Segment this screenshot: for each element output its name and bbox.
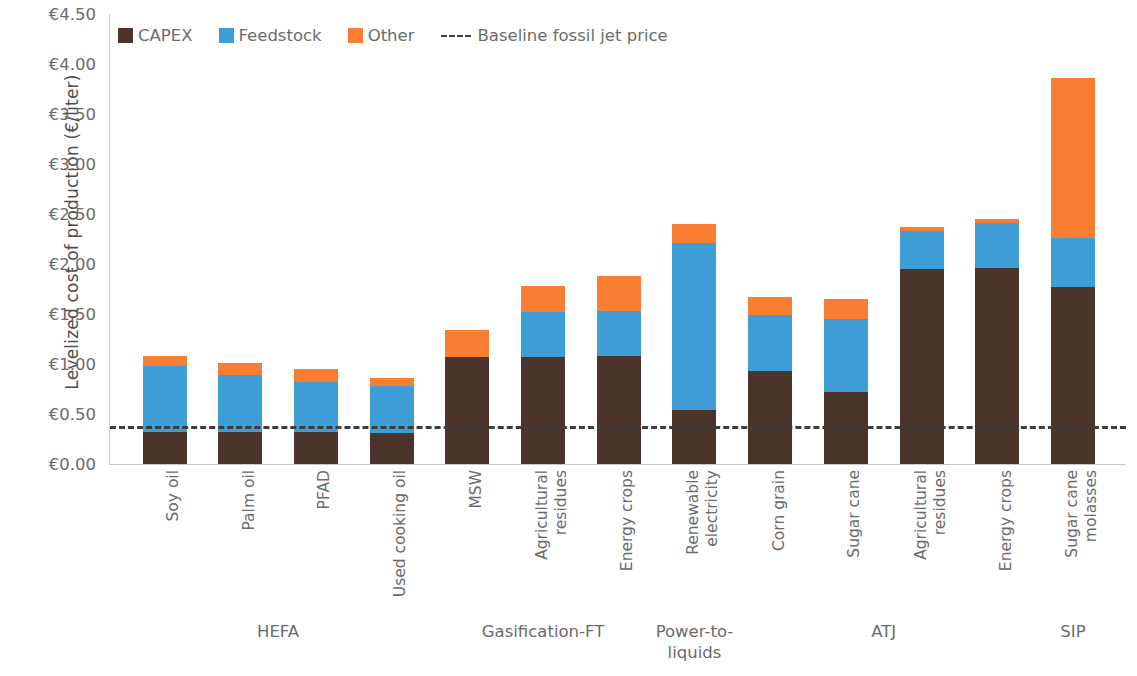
x-axis-label-text: PFAD xyxy=(315,470,334,509)
bar-segment-capex xyxy=(218,432,262,464)
x-axis-label-line: Renewable xyxy=(684,470,703,555)
x-axis-label-line: MSW xyxy=(467,470,486,509)
x-axis-label-line: Corn grain xyxy=(770,470,789,551)
bar-column[interactable] xyxy=(370,378,414,464)
bar-column[interactable] xyxy=(143,356,187,464)
bar-segment-capex xyxy=(900,269,944,464)
y-axis-tick-label: €4.50 xyxy=(49,5,96,24)
bar-segment-capex xyxy=(748,371,792,464)
bar-segment-other xyxy=(370,378,414,386)
y-axis-tick-label: €2.00 xyxy=(49,255,96,274)
x-axis-label-text: Energy crops xyxy=(618,470,637,571)
bar-segment-capex xyxy=(597,356,641,464)
bar-segment-feedstock xyxy=(521,312,565,357)
group-label: SIP xyxy=(983,622,1137,643)
x-axis-label: Agriculturalresidues xyxy=(521,470,565,620)
x-axis-label-text: Sugar canemolasses xyxy=(1063,470,1100,558)
x-axis-label-text: Renewableelectricity xyxy=(684,470,721,555)
group-label: HEFA xyxy=(188,622,368,643)
bar-segment-other xyxy=(143,356,187,366)
x-axis-label: Corn grain xyxy=(748,470,792,620)
bar-segment-feedstock xyxy=(900,231,944,269)
x-axis-label-line: PFAD xyxy=(315,470,334,509)
x-axis-label: Sugar canemolasses xyxy=(1051,470,1095,620)
y-axis-tick-label: €3.00 xyxy=(49,155,96,174)
x-axis-label: MSW xyxy=(445,470,489,620)
x-axis-label: Sugar cane xyxy=(824,470,868,620)
x-axis-label-text: Corn grain xyxy=(770,470,789,551)
x-axis-label-text: Soy oil xyxy=(164,470,183,522)
x-axis-label: PFAD xyxy=(294,470,338,620)
bar-segment-feedstock xyxy=(975,223,1019,268)
bar-column[interactable] xyxy=(445,330,489,464)
bar-column[interactable] xyxy=(218,363,262,464)
x-axis-label-text: Agriculturalresidues xyxy=(533,470,570,560)
bar-segment-other xyxy=(294,369,338,382)
bar-segment-feedstock xyxy=(672,243,716,410)
bar-segment-other xyxy=(597,276,641,311)
x-axis-line xyxy=(109,464,1126,465)
bar-segment-feedstock xyxy=(748,315,792,371)
x-axis-label: Soy oil xyxy=(143,470,187,620)
bar-segment-feedstock xyxy=(824,319,868,392)
x-axis-label: Energy crops xyxy=(597,470,641,620)
bar-segment-capex xyxy=(672,410,716,464)
x-axis-label: Palm oil xyxy=(218,470,262,620)
bar-segment-other xyxy=(218,363,262,375)
y-axis-tick-label: €1.00 xyxy=(49,355,96,374)
bar-column[interactable] xyxy=(294,369,338,464)
bar-segment-other xyxy=(1051,78,1095,238)
y-axis-tick-label: €0.50 xyxy=(49,405,96,424)
bar-segment-capex xyxy=(445,357,489,464)
x-axis-label: Used cooking oil xyxy=(370,470,414,620)
bar-column[interactable] xyxy=(597,276,641,464)
group-label: ATJ xyxy=(794,622,974,643)
x-axis-label-text: MSW xyxy=(467,470,486,509)
y-axis-tick-label: €4.00 xyxy=(49,55,96,74)
bar-segment-other xyxy=(824,299,868,319)
x-axis-label-line: Sugar cane xyxy=(845,470,864,558)
x-axis-label-text: Used cooking oil xyxy=(391,470,410,597)
bar-segment-feedstock xyxy=(294,382,338,432)
baseline-fossil-jet-price-line xyxy=(110,426,1126,429)
y-axis-tick-labels: €0.00€0.50€1.00€1.50€2.00€2.50€3.00€3.50… xyxy=(34,0,104,464)
x-axis-label-line: electricity xyxy=(703,470,722,555)
x-axis-label-text: Agriculturalresidues xyxy=(912,470,949,560)
bar-column[interactable] xyxy=(748,297,792,464)
bar-segment-feedstock xyxy=(143,366,187,432)
bar-segment-capex xyxy=(521,357,565,464)
bar-segment-feedstock xyxy=(1051,238,1095,287)
bar-segment-capex xyxy=(143,432,187,464)
y-axis-tick-label: €2.50 xyxy=(49,205,96,224)
x-axis-label-line: Agricultural xyxy=(533,470,552,560)
x-axis-label-line: residues xyxy=(552,470,571,560)
bar-segment-other xyxy=(748,297,792,315)
bar-column[interactable] xyxy=(1051,78,1095,464)
y-axis-tick-label: €3.50 xyxy=(49,105,96,124)
bar-segment-other xyxy=(521,286,565,312)
x-axis-label-line: residues xyxy=(930,470,949,560)
bar-segment-feedstock xyxy=(597,311,641,356)
x-axis-label-line: Used cooking oil xyxy=(391,470,410,597)
bar-segment-feedstock xyxy=(218,375,262,432)
bar-column[interactable] xyxy=(521,286,565,464)
x-axis-label-text: Energy crops xyxy=(997,470,1016,571)
bar-segment-capex xyxy=(294,432,338,464)
bar-segment-capex xyxy=(1051,287,1095,464)
x-axis-label: Energy crops xyxy=(975,470,1019,620)
x-axis-label-line: Agricultural xyxy=(912,470,931,560)
bar-series-area xyxy=(110,0,1126,464)
x-axis-label-line: Palm oil xyxy=(240,470,259,531)
x-axis-label: Renewableelectricity xyxy=(672,470,716,620)
bar-segment-capex xyxy=(370,433,414,464)
y-axis-tick-label: €0.00 xyxy=(49,455,96,474)
bar-segment-capex xyxy=(975,268,1019,464)
y-axis-tick-label: €1.50 xyxy=(49,305,96,324)
x-axis-label-text: Sugar cane xyxy=(845,470,864,558)
x-axis-label-line: Energy crops xyxy=(997,470,1016,571)
bar-column[interactable] xyxy=(824,299,868,464)
x-axis-label-line: Energy crops xyxy=(618,470,637,571)
bar-segment-other xyxy=(445,330,489,357)
x-axis-label-line: molasses xyxy=(1082,470,1101,558)
x-axis-label-line: Sugar cane xyxy=(1063,470,1082,558)
